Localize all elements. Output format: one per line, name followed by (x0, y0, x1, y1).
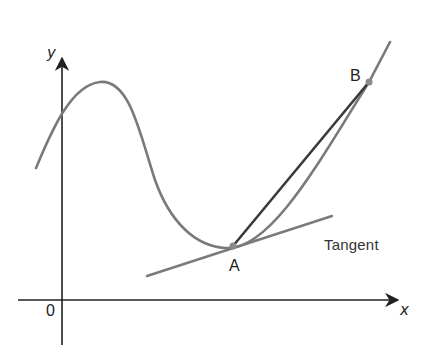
point-b (366, 79, 373, 86)
function-curve (36, 42, 390, 248)
point-a-label: A (229, 258, 240, 274)
y-axis-label: y (47, 46, 56, 61)
secant-line-ab (233, 82, 369, 246)
point-a (230, 243, 237, 250)
origin-label: 0 (46, 303, 55, 319)
point-b-label: B (350, 68, 361, 84)
tangent-label: Tangent (324, 237, 379, 252)
x-axis-label: x (400, 303, 409, 318)
function-graph (0, 0, 428, 362)
